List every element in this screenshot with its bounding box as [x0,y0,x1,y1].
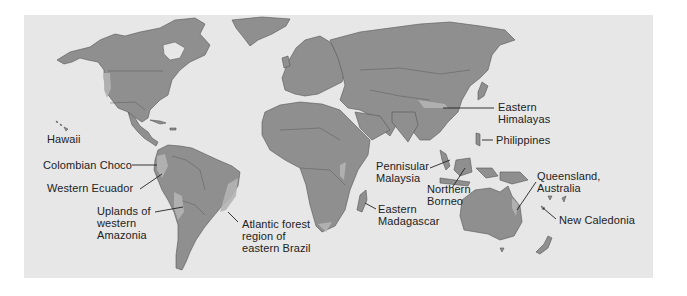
label-colombian-choco: Colombian Choco [43,159,132,171]
label-queensland: Queensland, Australia [537,170,600,194]
label-northern-borneo: Northern Borneo [427,183,471,207]
leader-new-caledonia [543,208,556,219]
label-hawaii: Hawaii [47,133,81,145]
label-peninsular-malaysia: Pennisular Malaysia [376,160,429,184]
greenland [232,17,290,46]
africa [262,102,370,232]
label-new-caledonia: New Caledonia [559,214,635,226]
uk [282,56,290,68]
hawaii-islands [56,121,68,131]
madagascar [357,190,367,212]
label-philippines: Philippines [496,134,550,146]
world-map [0,0,687,296]
leader-queensland [517,182,536,210]
leader-atlantic-forest [228,212,238,222]
india [392,112,418,142]
label-uplands-amazonia: Uplands of western Amazonia [97,205,151,241]
label-atlantic-forest: Atlantic forest region of eastern Brazil [242,218,311,254]
leader-madagascar [365,203,376,209]
south-america [154,145,240,270]
australia [460,186,566,254]
label-eastern-himalayas: Eastern Himalayas [498,101,550,125]
north-america [57,18,210,146]
label-western-ecuador: Western Ecuador [47,182,133,194]
